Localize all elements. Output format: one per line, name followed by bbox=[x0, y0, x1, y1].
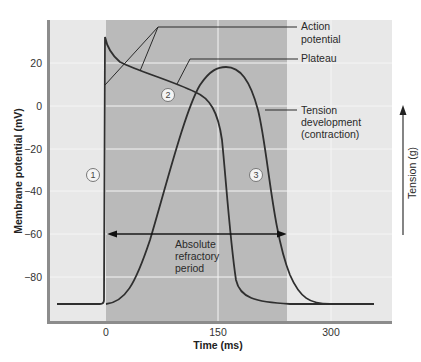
action-potential-chart: 1 2 3 Action potential Plateau Tension d… bbox=[0, 0, 421, 362]
y-tick-neg80: −80 bbox=[24, 271, 42, 283]
y-tick-neg40: −40 bbox=[24, 185, 42, 197]
refractory-label-line1: Absolute bbox=[175, 238, 216, 250]
x-tick-0: 0 bbox=[103, 326, 109, 338]
tension-axis-title: Tension (g) bbox=[406, 147, 418, 199]
phase-marker-3: 3 bbox=[250, 169, 263, 182]
phase-marker-1: 1 bbox=[87, 169, 100, 182]
tension-axis: Tension (g) bbox=[400, 105, 419, 235]
y-tick-neg60: −60 bbox=[24, 228, 42, 240]
y-axis-title: Membrane potential (mV) bbox=[12, 108, 24, 233]
phase-1-label: 1 bbox=[90, 170, 95, 180]
action-potential-label-line2: potential bbox=[301, 33, 341, 45]
y-tick-20: 20 bbox=[30, 57, 42, 69]
x-tick-150: 150 bbox=[209, 326, 227, 338]
tension-label-line3: (contraction) bbox=[301, 128, 359, 140]
x-axis-line bbox=[47, 321, 392, 324]
y-axis-ticks: 20 0 −20 −40 −60 −80 bbox=[24, 57, 42, 283]
plateau-label: Plateau bbox=[301, 52, 337, 64]
refractory-label-line3: period bbox=[175, 262, 204, 274]
action-potential-label-line1: Action bbox=[301, 20, 330, 32]
phase-marker-2: 2 bbox=[162, 89, 175, 102]
y-axis-line bbox=[47, 20, 50, 324]
tension-label-line2: development bbox=[301, 116, 361, 128]
x-axis-ticks: 0 150 300 bbox=[103, 326, 340, 338]
x-tick-300: 300 bbox=[322, 326, 340, 338]
refractory-label-line2: refractory bbox=[175, 250, 220, 262]
tension-label-line1: Tension bbox=[301, 104, 337, 116]
phase-3-label: 3 bbox=[253, 170, 258, 180]
x-axis-title: Time (ms) bbox=[193, 339, 242, 351]
y-tick-0: 0 bbox=[36, 100, 42, 112]
arrow-up-icon bbox=[400, 105, 407, 115]
y-tick-neg20: −20 bbox=[24, 143, 42, 155]
phase-2-label: 2 bbox=[165, 90, 170, 100]
